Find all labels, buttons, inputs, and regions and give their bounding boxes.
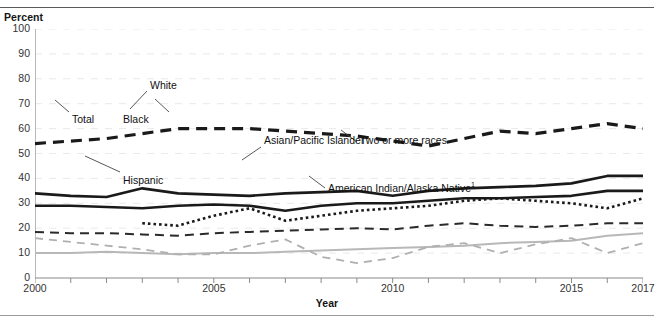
callout-leader-line [242, 147, 261, 160]
y-tick-label: 70 [4, 97, 30, 109]
y-tick-label: 30 [4, 196, 30, 208]
plot-area [35, 29, 643, 278]
y-tick-label: 100 [4, 22, 30, 34]
y-tick-label: 60 [4, 122, 30, 134]
callout-label-asian-pacific-islander: Asian/Pacific Islander [264, 134, 364, 146]
footnote-marker: 1 [471, 181, 475, 188]
x-axis-title: Year [0, 297, 654, 309]
callout-leader-line [155, 99, 169, 112]
chart-svg [35, 29, 643, 284]
callout-label-hispanic: Hispanic [123, 174, 163, 186]
callout-label-black: Black [123, 113, 149, 125]
callout-label-total: Total [72, 113, 94, 125]
bottom-divider-rule [0, 315, 654, 316]
y-tick-label: 40 [4, 171, 30, 183]
callout-leader-line [309, 176, 325, 188]
y-tick-label: 10 [4, 246, 30, 258]
callout-leader-line [130, 91, 147, 109]
callout-leader-line [55, 100, 69, 112]
callout-label-white: White [150, 79, 177, 91]
y-tick-label: 50 [4, 147, 30, 159]
y-tick-label: 20 [4, 221, 30, 233]
series-line-black [35, 223, 643, 235]
callout-leader-line [85, 156, 120, 172]
callout-label-american-indian-alaska-native: American Indian/Alaska Native1 [328, 181, 475, 194]
top-divider-rule [0, 7, 654, 8]
y-tick-label: 80 [4, 72, 30, 84]
callout-label-two-or-more-races: Two or more races [360, 134, 447, 146]
y-tick-label: 90 [4, 47, 30, 59]
series-line-hispanic [35, 233, 643, 254]
